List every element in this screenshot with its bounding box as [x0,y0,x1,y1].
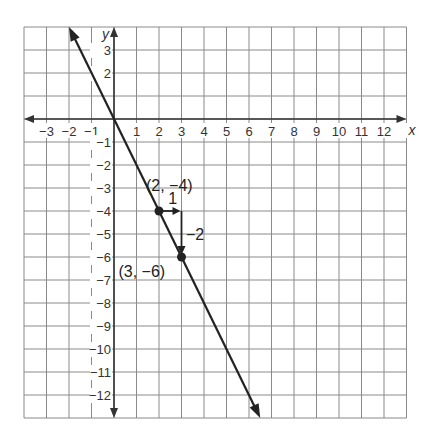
x-tick-label: 6 [245,124,252,139]
x-tick-label: 4 [200,124,207,139]
grid-lines [24,27,407,418]
point-marker [155,207,164,216]
x-axis-right-arrow-icon [397,115,407,123]
x-tick-label: 5 [223,124,230,139]
y-tick-label: −12 [89,388,111,403]
point-marker [177,253,186,262]
x-tick-label: 2 [155,124,162,139]
x-tick-label: 10 [332,124,346,139]
y-tick-label: −5 [96,227,111,242]
x-tick-label: −3 [39,124,54,139]
y-tick-label: −1 [96,135,111,150]
y-tick-label: −11 [90,365,111,380]
x-tick-label: 8 [290,124,297,139]
y-tick-label: −4 [96,204,111,219]
line-arrow-up-icon [69,27,80,42]
line-arrow-down-icon [250,403,261,418]
y-tick-label: −9 [96,319,111,334]
axes [24,27,407,418]
y-tick-label: −6 [96,250,111,265]
x-tick-label: 9 [313,124,320,139]
x-tick-label: −2 [62,124,77,139]
run-arrow-head-icon [173,207,181,215]
y-tick-label: 2 [104,66,111,81]
y-tick-label: −3 [96,181,111,196]
x-tick-label: 1 [133,124,140,139]
x-axis-label: x [408,122,417,138]
y-axis-label: y [101,26,110,42]
plot-line [69,27,260,418]
coordinate-graph: −3−2−112345678910111232−1−2−3−4−5−6−7−8−… [0,0,427,442]
rise-label: −2 [186,226,204,243]
y-tick-label: 3 [104,43,111,58]
x-axis-left-arrow-icon [24,115,34,123]
x-tick-label: 7 [268,124,275,139]
y-tick-label: −8 [96,296,111,311]
point-label-3-neg6: (3, −6) [119,263,166,280]
x-tick-label: 3 [178,124,185,139]
x-tick-label: 11 [355,124,369,139]
y-tick-label: −10 [89,342,111,357]
y-tick-label: −7 [96,273,111,288]
y-axis-down-arrow-icon [110,408,118,418]
y-tick-label: −2 [96,158,111,173]
y-axis-up-arrow-icon [110,27,118,37]
x-tick-label: 12 [377,124,391,139]
annotations: (2, −4)(3, −6)1−2 [119,177,205,280]
run-label: 1 [168,190,177,207]
